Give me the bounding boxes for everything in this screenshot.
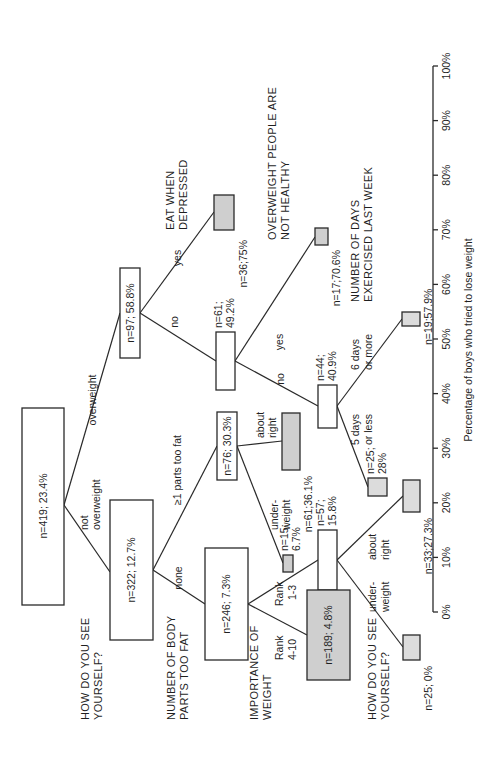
question-exercise-2: EXERCISED LAST WEEK <box>362 167 374 302</box>
edge-label-rank-4-10-b: 4-10 <box>286 639 298 660</box>
edge-label-right: right <box>266 417 278 438</box>
node-rank-1-3 <box>318 530 337 590</box>
question-parts-1: NUMBER OF BODY <box>165 615 177 720</box>
axis-tick-label: 10% <box>440 547 452 568</box>
edge-parts-about-right <box>237 441 282 446</box>
edge-label-rank-1-3-b: 1-3 <box>286 585 298 600</box>
node-ex-5less <box>368 478 387 496</box>
edge-label-rank-1-3-a: Rank <box>273 581 285 606</box>
axis-tick-label: 70% <box>440 219 452 240</box>
node-eat-yes-label: n=36;75% <box>237 240 249 288</box>
edge-label-healthy-yes: yes <box>273 334 285 350</box>
node-rank-1-3-label-1: n=57; <box>314 499 326 526</box>
edge-label-under-2: under- <box>366 581 378 612</box>
axis-tick-label: 30% <box>440 438 452 459</box>
edge-root-not-overweight <box>64 505 110 572</box>
edge-label-eat-no: no <box>168 316 180 328</box>
node-ex-5less-label-2: 28% <box>376 453 388 474</box>
edge-label-5days: 5 days <box>349 414 361 445</box>
node-healthy-yes <box>315 228 328 245</box>
axis-tick-label: 60% <box>440 274 452 295</box>
node-healthy-yes-label: n=17;70.6% <box>330 250 342 306</box>
node-healthy-no <box>318 385 337 428</box>
node-eat-yes <box>214 195 234 230</box>
edge-label-right-2: right <box>379 539 391 560</box>
question-root-2: YOURSELF? <box>92 652 104 720</box>
node-ex-5less-label-1: n=25; <box>364 447 376 474</box>
node-eat-no-label-2: 49.2% <box>224 298 236 328</box>
edge-label-eat-yes: yes <box>171 250 183 266</box>
edge-label-or-more: or more <box>362 334 374 370</box>
node-ex-6plus <box>402 312 420 326</box>
edge-label-weight: weight <box>280 500 292 531</box>
decision-tree-diagram: n=419; 23.4% n=97; 58.8% n=36;75% n=61; … <box>0 0 484 765</box>
question-healthy-1: OVERWEIGHT PEOPLE ARE <box>266 87 278 240</box>
node-healthy-no-label-1: n=44; <box>314 354 326 381</box>
question-see-self-2: YOURSELF? <box>379 652 391 720</box>
node-parts-about-right <box>282 413 300 470</box>
percentage-axis: 0%10%20%30%40%50%60%70%80%90%100% Percen… <box>433 53 474 620</box>
node-not-overweight-label: n=322; 12.7% <box>125 537 137 602</box>
node-see-about-right-label: n=33;27.3% <box>422 518 434 574</box>
axis-tick-label: 0% <box>440 604 452 619</box>
axis-tick-label: 40% <box>440 383 452 404</box>
edge-label-healthy-no: no <box>274 373 286 385</box>
node-root-label: n=419; 23.4% <box>37 473 49 538</box>
edge-label-none: none <box>172 566 184 590</box>
question-importance-1: IMPORTANCE OF <box>248 625 260 720</box>
node-see-about-right <box>403 480 420 512</box>
node-rank-1-3-label-2: 15.8% <box>326 496 338 526</box>
edge-label-not: not <box>78 515 90 530</box>
edge-label-under: under- <box>268 499 280 530</box>
axis-tick-label: 100% <box>440 53 452 80</box>
axis-tick-label: 80% <box>440 165 452 186</box>
edge-label-parts-1plus: ≥1 parts too fat <box>171 435 183 505</box>
node-see-underweight <box>403 635 420 660</box>
question-eat-2: DEPRESSED <box>177 159 189 230</box>
edge-label-6days: 6 days <box>349 339 361 370</box>
question-eat-1: EAT WHEN <box>164 171 176 230</box>
question-see-self-1: HOW DO YOU SEE <box>366 618 378 720</box>
node-rank-4-10-label: n=189; 4.8% <box>322 605 334 664</box>
node-ex-6plus-label: n=19;57.9% <box>422 289 434 345</box>
node-parts-1plus-label: n=76; 30.3% <box>221 416 233 475</box>
edge-label-about-2: about <box>366 534 378 560</box>
node-eat-no-label-1: n=61; <box>212 301 224 328</box>
node-parts-none-label: n=246; 7.3% <box>220 574 232 633</box>
edge-label-not-overweight: overweight <box>90 479 102 530</box>
axis-tick-label: 50% <box>440 328 452 349</box>
edge-label-about: about <box>254 412 266 438</box>
edge-label-weight-2: weight <box>379 582 391 613</box>
question-parts-2: PARTS TOO FAT <box>178 632 190 720</box>
axis-tick-label: 90% <box>440 110 452 131</box>
node-healthy-no-label-2: 40.9% <box>326 351 338 381</box>
edge-label-or-less: or less <box>362 414 374 445</box>
question-root-1: HOW DO YOU SEE <box>79 618 91 720</box>
question-exercise-1: NUMBER OF DAYS <box>349 200 361 302</box>
question-importance-2: WEIGHT <box>261 674 273 720</box>
edge-label-rank-4-10-a: Rank <box>273 635 285 660</box>
axis-title: Percentage of boys who tried to lose wei… <box>462 238 474 441</box>
edge-label-overweight: overweight <box>86 375 98 426</box>
axis-tick-label: 20% <box>440 492 452 513</box>
node-overweight-label: n=97; 58.8% <box>124 283 136 342</box>
node-see-underweight-label: n=25; 0% <box>422 666 434 711</box>
node-eat-no <box>216 332 235 390</box>
node-parts-underweight <box>283 555 293 572</box>
question-healthy-2: NOT HEALTHY <box>279 160 291 240</box>
node-parts-about-right-label: n=61;36.1% <box>302 476 314 532</box>
